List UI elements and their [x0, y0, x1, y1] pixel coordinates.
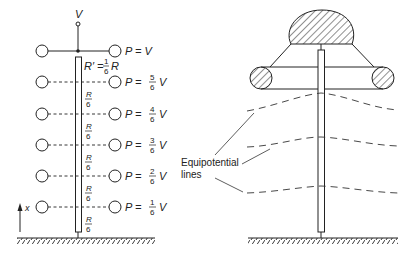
- potential-label-5: P = 1 6 V: [125, 198, 168, 217]
- left-resistor-divider-diagram: V: [17, 8, 168, 244]
- svg-text:6: 6: [86, 100, 91, 109]
- svg-text:R: R: [86, 215, 92, 224]
- left-probe-circles: [36, 45, 48, 213]
- svg-text:6: 6: [150, 115, 155, 124]
- resistor-rod: [76, 57, 82, 232]
- supply-terminal: [76, 22, 80, 26]
- potential-label-0: P = V: [125, 45, 153, 57]
- svg-text:6: 6: [86, 225, 91, 234]
- svg-text:P =: P =: [125, 139, 142, 151]
- callout-leaders: [215, 113, 270, 192]
- svg-text:V: V: [159, 108, 168, 120]
- svg-text:R: R: [86, 90, 92, 99]
- segment-label-4: R 6: [85, 184, 92, 203]
- insulator-rod: [318, 50, 325, 232]
- segment-label-1: R 6: [85, 90, 92, 109]
- potential-label-3: P = 3 6 V: [125, 136, 168, 155]
- diagram-canvas: V: [0, 0, 410, 262]
- svg-text:P =: P =: [125, 170, 142, 182]
- svg-text:6: 6: [86, 194, 91, 203]
- svg-text:4: 4: [150, 105, 155, 114]
- svg-text:V: V: [159, 76, 168, 88]
- svg-text:3: 3: [150, 136, 155, 145]
- svg-text:6: 6: [150, 83, 155, 92]
- left-ground: [17, 238, 155, 244]
- top-resistor-label: R′ = 1 6 R: [84, 57, 119, 76]
- segment-label-3: R 6: [85, 153, 92, 172]
- svg-text:P =: P =: [125, 108, 142, 120]
- cone-left: [270, 44, 291, 67]
- potential-label-4: P = 2 6 V: [125, 167, 168, 186]
- svg-text:V: V: [159, 170, 168, 182]
- ring-section-right: [372, 67, 394, 89]
- cone-right: [352, 44, 374, 67]
- x-axis-label: x: [24, 203, 30, 213]
- svg-text:V: V: [159, 139, 168, 151]
- segment-labels: R 6 R 6 R 6 R 6 R 6: [85, 90, 92, 234]
- svg-text:6: 6: [104, 67, 109, 76]
- svg-text:6: 6: [150, 177, 155, 186]
- svg-text:R: R: [86, 122, 92, 131]
- svg-text:R′ =: R′ =: [84, 60, 104, 72]
- potential-label-1: P = 5 6 V: [125, 73, 168, 92]
- svg-text:6: 6: [150, 146, 155, 155]
- x-axis-arrow: x: [18, 203, 31, 232]
- segment-label-5: R 6: [85, 215, 92, 234]
- svg-text:P =: P =: [125, 201, 142, 213]
- potential-labels: P = V P = 5 6 V P = 4 6 V P = 3: [125, 45, 168, 217]
- top-electrode: [289, 10, 354, 44]
- supply-voltage-label: V: [75, 8, 84, 20]
- svg-text:R: R: [86, 184, 92, 193]
- right-grading-ring-diagram: Equipotential lines: [181, 10, 398, 244]
- svg-text:6: 6: [86, 163, 91, 172]
- right-ground: [248, 238, 398, 244]
- svg-text:6: 6: [150, 208, 155, 217]
- svg-text:1: 1: [150, 198, 155, 207]
- equipotential-label-line1: Equipotential: [181, 157, 239, 168]
- svg-text:P =: P =: [125, 76, 142, 88]
- ring-section-left: [250, 67, 272, 89]
- arrow-head-icon: [18, 203, 23, 211]
- svg-text:5: 5: [150, 73, 155, 82]
- svg-text:R: R: [111, 60, 119, 72]
- svg-text:6: 6: [86, 132, 91, 141]
- svg-text:R: R: [86, 153, 92, 162]
- potential-label-2: P = 4 6 V: [125, 105, 168, 124]
- equipotential-label-line2: lines: [181, 169, 202, 180]
- svg-text:2: 2: [150, 167, 155, 176]
- segment-label-2: R 6: [85, 122, 92, 141]
- svg-text:1: 1: [104, 57, 109, 66]
- svg-text:V: V: [159, 201, 168, 213]
